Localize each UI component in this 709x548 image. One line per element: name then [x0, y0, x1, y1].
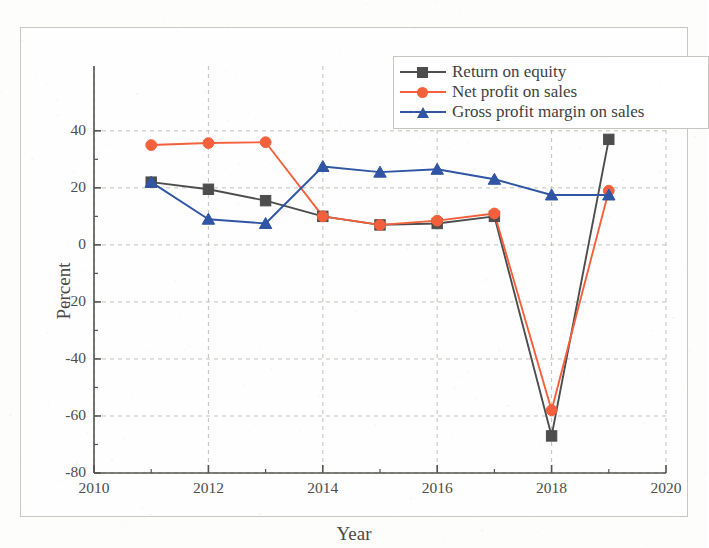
data-point-marker [260, 137, 271, 148]
data-point-marker [203, 184, 213, 194]
x-tick-label: 2010 [64, 479, 124, 497]
x-tick-label: 2018 [522, 479, 582, 497]
legend-item-gross-profit-margin-on-sales: Gross profit margin on sales [400, 102, 702, 122]
data-point-marker [604, 134, 614, 144]
y-tick-label: -60 [40, 406, 86, 424]
data-point-marker [489, 208, 500, 219]
y-tick-label: 40 [40, 121, 86, 139]
chart-legend: Return on equity Net profit on sales Gro… [393, 56, 709, 129]
legend-key-triangle-icon [400, 104, 446, 120]
plot-frame: 40200-20-40-60-80 2010201220142016201820… [20, 27, 688, 517]
y-axis-title: Percent [53, 231, 75, 351]
legend-item-return-on-equity: Return on equity [400, 62, 702, 82]
legend-label-gross-profit-margin-on-sales: Gross profit margin on sales [452, 102, 644, 122]
data-point-marker [260, 195, 270, 205]
legend-key-square-icon [400, 64, 446, 80]
x-tick-label: 2014 [293, 479, 353, 497]
data-point-marker [432, 215, 443, 226]
data-point-marker [317, 211, 328, 222]
x-tick-label: 2012 [178, 479, 238, 497]
y-tick-label: -40 [40, 349, 86, 367]
data-point-marker [146, 140, 157, 151]
x-tick-label: 2016 [407, 479, 467, 497]
legend-label-net-profit-on-sales: Net profit on sales [452, 82, 577, 102]
legend-key-circle-icon [400, 84, 446, 100]
data-point-marker [546, 431, 556, 441]
legend-label-return-on-equity: Return on equity [452, 62, 566, 82]
x-axis-title: Year [21, 523, 687, 545]
data-point-marker [546, 405, 557, 416]
data-point-marker [375, 220, 386, 231]
x-tick-label: 2020 [636, 479, 696, 497]
data-point-marker [203, 138, 214, 149]
y-tick-label: 20 [40, 178, 86, 196]
legend-item-net-profit-on-sales: Net profit on sales [400, 82, 702, 102]
